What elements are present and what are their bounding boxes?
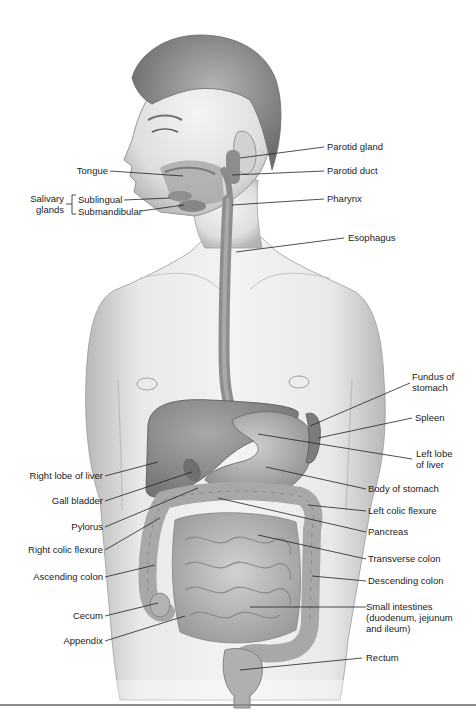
- label-descending-colon: Descending colon: [368, 575, 444, 586]
- label-body-stomach: Body of stomach: [368, 483, 439, 494]
- label-left-colic-flexure: Left colic flexure: [368, 505, 437, 516]
- label-right-lobe-liver: Right lobe of liver: [0, 470, 103, 481]
- label-left-lobe-liver: Left lobe of liver: [416, 448, 452, 470]
- label-rectum: Rectum: [366, 652, 399, 663]
- label-right-colic-flexure: Right colic flexure: [0, 544, 103, 555]
- label-pancreas: Pancreas: [368, 526, 408, 537]
- label-spleen: Spleen: [415, 412, 445, 423]
- label-esophagus: Esophagus: [348, 232, 396, 243]
- label-tongue: Tongue: [40, 165, 108, 176]
- label-transverse-colon: Transverse colon: [368, 553, 441, 564]
- label-parotid-gland: Parotid gland: [327, 141, 383, 152]
- label-appendix: Appendix: [0, 635, 103, 646]
- label-ascending-colon: Ascending colon: [0, 571, 103, 582]
- label-sublingual: Sublingual: [78, 194, 122, 205]
- label-parotid-duct: Parotid duct: [327, 165, 378, 176]
- label-pylorus: Pylorus: [0, 521, 103, 532]
- small-intestine: [172, 513, 300, 643]
- label-gall-bladder: Gall bladder: [0, 495, 103, 506]
- label-fundus-stomach: Fundus of stomach: [412, 371, 454, 393]
- label-salivary-glands: Salivary glands: [8, 193, 64, 215]
- label-small-intestines: Small intestines (duodenum, jejunum and …: [366, 601, 453, 634]
- label-pharynx: Pharynx: [327, 193, 362, 204]
- bottom-divider: [0, 704, 476, 706]
- label-submandibular: Submandibular: [78, 206, 142, 217]
- label-cecum: Cecum: [0, 610, 103, 621]
